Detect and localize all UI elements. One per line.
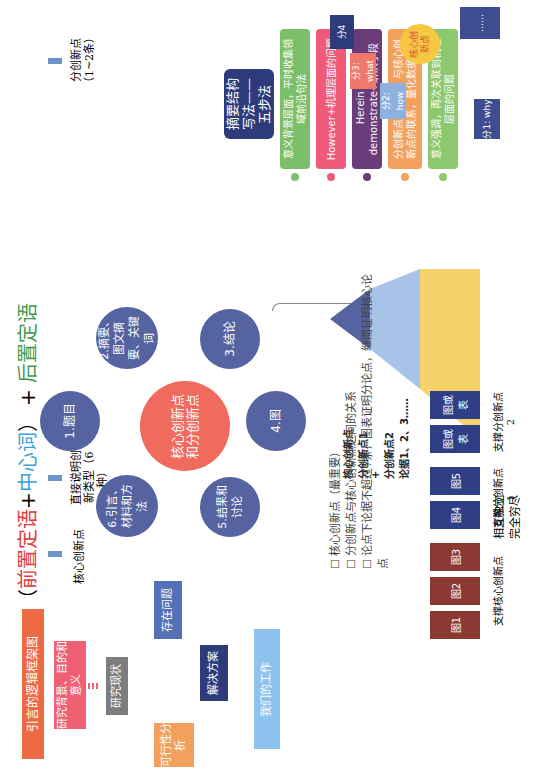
diagram-canvas: （前置定语+中心词） + 后置定语 核心创新点 直接说明创新类型（6种） 分创新… <box>0 0 536 769</box>
figure-box: 图或表 <box>430 425 480 453</box>
satellite-abstract: 2.摘要、图文摘要、关键词 <box>96 307 158 369</box>
satellite-intro: 6.引言、材料和方法 <box>96 475 158 537</box>
arrow-icon <box>88 683 100 689</box>
figure-box: 图5 <box>430 467 480 495</box>
part-how: 分2: how <box>380 83 406 119</box>
part-why: 分1: why <box>474 99 500 139</box>
node-our-work: 我们的工作 <box>254 629 280 749</box>
figure-box: 图2 <box>430 577 480 605</box>
head-word: 中心词 <box>16 432 40 492</box>
intro-framework-title: 引言的逻辑框架图 <box>22 609 44 759</box>
figure-caption: 支撑分创新点1 <box>490 467 516 529</box>
satellite-conclusion: 3.结论 <box>200 309 260 369</box>
figure-caption: 支撑核心创新点 <box>490 543 505 639</box>
post-modifier: 后置定语 <box>16 303 40 383</box>
checklist: ☐ 核心创新点（最重要） ☐ 分创新点与核心创新点之间的关系 ☐ 论点下论据不超… <box>326 269 390 569</box>
down-arrow-icon <box>48 58 62 64</box>
figure-box: 图4 <box>430 501 480 529</box>
figure-caption: 支撑分创新点2 <box>490 391 516 453</box>
figure-box: 图或表 <box>430 391 480 419</box>
part-more: …… <box>460 7 500 39</box>
checklist-item: ☐ 论点下论据不超过7条，图表证明分论点，继而证明核心论点 <box>358 269 390 569</box>
node-problems: 存在问题 <box>154 581 182 639</box>
plus-sign: + <box>16 492 40 509</box>
pre-modifier: 前置定语 <box>16 509 40 589</box>
dot-marker <box>291 173 299 181</box>
node-feasibility: 可行性分析 <box>154 723 194 767</box>
title-formula: （前置定语+中心词） + 后置定语 <box>12 303 41 609</box>
paren-close: ） <box>16 412 40 432</box>
part-4: 分4 <box>330 15 354 49</box>
abstract-step-1: 意义背景层面，平时收集领域前沿句法 <box>280 29 310 169</box>
down-arrow-icon <box>48 475 62 481</box>
hub-center: 核心创新点和分创新点 <box>140 381 230 471</box>
abstract-step-2: However+机理层面的问题 <box>316 29 346 169</box>
satellite-results: 5.结果和讨论 <box>200 477 260 537</box>
paren-open: （ <box>16 589 40 609</box>
dot-marker <box>401 173 409 181</box>
node-background: 研究背景、目的和意义 <box>54 641 86 729</box>
dot-marker <box>327 173 335 181</box>
node-solution: 解决方案 <box>200 645 228 701</box>
abstract-method-title: 摘要结构写法——五步法 <box>224 69 274 139</box>
satellite-figures: 4.图 <box>246 391 306 451</box>
checklist-item: ☐ 分创新点与核心创新点之间的关系 <box>342 269 358 569</box>
map-core: 核心创新点 <box>70 529 86 584</box>
figure-box: 图3 <box>430 543 480 571</box>
figure-box: 图1 <box>430 611 480 639</box>
dot-marker <box>363 173 371 181</box>
down-arrow-icon <box>48 551 62 557</box>
dot-marker <box>439 173 447 181</box>
abstract-step-3: Herein we demonstrate+解决手段 <box>352 29 382 169</box>
part-what: 分3: what <box>350 53 376 89</box>
pyramid-level-evidence: 论据1、2、3…… <box>396 398 411 479</box>
figure-groups: 图1 图2 图3 图4 图5 图或表 图或表 支撑核心创新点 支撑分创新点1 支… <box>430 309 520 639</box>
plus-sign-2: + <box>16 389 40 406</box>
map-sub: 分创新点（1~2条） <box>70 27 96 93</box>
checklist-item: ☐ 核心创新点（最重要） <box>326 269 342 569</box>
core-point-center: 核心创新点 <box>400 24 440 64</box>
node-status: 研究现状 <box>106 657 128 715</box>
satellite-title: 1.题目 <box>40 391 100 451</box>
